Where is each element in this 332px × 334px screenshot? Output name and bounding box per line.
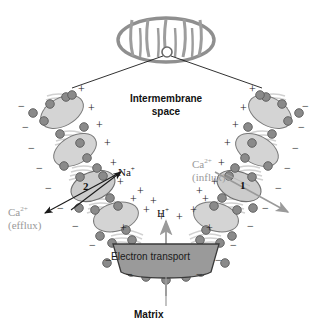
h-charge: + <box>165 206 169 214</box>
svg-text:−: − <box>302 99 309 113</box>
svg-text:−: − <box>247 219 254 233</box>
svg-text:+: + <box>176 210 183 224</box>
complex-1-label: 1 <box>240 179 246 191</box>
svg-text:+: + <box>96 118 103 132</box>
svg-text:−: − <box>284 161 291 175</box>
svg-text:−: − <box>262 201 269 215</box>
svg-text:−: − <box>57 201 64 215</box>
svg-text:+: + <box>104 136 111 150</box>
svg-text:+: + <box>224 136 231 150</box>
proton-label: H+ <box>157 206 169 219</box>
svg-text:+: + <box>143 203 150 217</box>
svg-text:−: − <box>292 141 299 155</box>
svg-text:−: − <box>72 219 79 233</box>
svg-text:+: + <box>88 101 95 115</box>
svg-text:+: + <box>150 194 157 208</box>
svg-text:−: − <box>196 267 203 281</box>
svg-text:+: + <box>78 82 85 96</box>
intermembrane-space-label: Intermembrane space <box>118 92 214 118</box>
ca-efflux-note: (efflux) <box>8 219 41 231</box>
intermembrane-line1: Intermembrane <box>130 93 202 104</box>
svg-text:+: + <box>249 82 256 96</box>
svg-text:−: − <box>275 181 282 195</box>
figure-canvas: +++ +++ +++ +++ +++ +++ +++ ++ −−− −−− −… <box>0 0 332 334</box>
sodium-label: Na+ <box>118 165 135 178</box>
h-symbol: H <box>157 207 165 219</box>
svg-text:−: − <box>230 238 237 252</box>
svg-text:−: − <box>89 238 96 252</box>
ca-influx-charge: 2+ <box>204 157 212 165</box>
mitochondrion-icon <box>118 18 214 62</box>
ca-influx-note: (influx) <box>192 171 226 183</box>
svg-text:+: + <box>120 221 127 235</box>
svg-text:−: − <box>126 267 133 281</box>
ca-efflux-symbol: Ca <box>8 206 20 218</box>
diagram-svg: +++ +++ +++ +++ +++ +++ +++ ++ −−− −−− −… <box>0 0 332 334</box>
svg-text:−: − <box>45 181 52 195</box>
crista-magnification-marker <box>162 47 172 57</box>
svg-text:+: + <box>110 156 117 170</box>
na-charge: + <box>131 165 135 173</box>
svg-text:+: + <box>240 101 247 115</box>
intermembrane-line2: space <box>152 106 180 117</box>
ca-influx-symbol: Ca <box>192 158 204 170</box>
na-symbol: Na <box>118 166 131 178</box>
svg-text:+: + <box>232 118 239 132</box>
complex-2-label: 2 <box>83 180 89 192</box>
calcium-influx-label: Ca2+ (influx) <box>192 155 226 184</box>
svg-text:−: − <box>18 99 25 113</box>
svg-text:−: − <box>298 120 305 134</box>
svg-text:+: + <box>130 192 137 206</box>
calcium-efflux-label: Ca2+ (efflux) <box>8 203 41 232</box>
svg-text:+: + <box>202 192 209 206</box>
svg-text:+: + <box>137 184 144 198</box>
svg-text:−: − <box>22 120 29 134</box>
svg-text:+: + <box>206 221 213 235</box>
svg-text:−: − <box>36 161 43 175</box>
ca-efflux-charge: 2+ <box>20 205 28 213</box>
electron-transport-label: Electron transport <box>111 251 190 262</box>
svg-text:−: − <box>215 253 222 267</box>
svg-text:+: + <box>190 203 197 217</box>
svg-text:+: + <box>196 184 203 198</box>
matrix-label: Matrix <box>134 309 163 320</box>
svg-text:−: − <box>28 141 35 155</box>
